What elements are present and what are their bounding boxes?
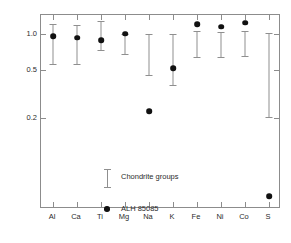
x-axis-label-co: Co bbox=[239, 212, 249, 221]
x-axis-label-al: Al bbox=[49, 212, 56, 221]
data-point-mg bbox=[122, 31, 128, 37]
data-point-ti bbox=[98, 38, 104, 44]
x-axis-label-fe: Fe bbox=[192, 212, 201, 221]
data-point-ni bbox=[218, 24, 224, 30]
error-bar-icon bbox=[107, 169, 108, 188]
x-axis-label-ni: Ni bbox=[216, 212, 223, 221]
x-axis-label-mg: Mg bbox=[119, 212, 129, 221]
data-point-co bbox=[242, 20, 248, 26]
legend-item-alh85085: ALH 85085 bbox=[107, 203, 108, 225]
x-axis-label-s: S bbox=[265, 212, 270, 221]
y-axis-title-container: ELEMENTS/Si RELATIVE TO CI bbox=[2, 14, 16, 208]
x-axis-label-na: Na bbox=[143, 212, 153, 221]
data-point-s bbox=[266, 193, 272, 199]
x-axis-label-ca: Ca bbox=[71, 212, 81, 221]
data-point-na bbox=[146, 108, 152, 114]
y-axis-label-0.2: 0.2 bbox=[27, 113, 37, 122]
legend-item-chondrite-groups: Chondrite groups bbox=[107, 167, 108, 189]
y-axis-label-0.5: 0.5 bbox=[27, 65, 37, 74]
legend: Chondrite groups ALH 85085 bbox=[107, 167, 108, 225]
data-point-fe bbox=[194, 21, 200, 27]
data-point-k bbox=[170, 66, 176, 72]
x-axis-label-k: K bbox=[169, 212, 174, 221]
chart-figure: ELEMENTS/Si RELATIVE TO CI Chondrite gro… bbox=[0, 0, 291, 243]
data-point-al bbox=[50, 33, 56, 39]
data-point-ca bbox=[74, 35, 80, 41]
filled-circle-icon bbox=[104, 206, 110, 212]
y-axis-label-1.0: 1.0 bbox=[27, 29, 37, 38]
x-axis-label-ti: Ti bbox=[97, 212, 103, 221]
legend-label-chondrite-groups: Chondrite groups bbox=[121, 172, 179, 181]
plot-area: Chondrite groups ALH 85085 bbox=[40, 14, 280, 208]
